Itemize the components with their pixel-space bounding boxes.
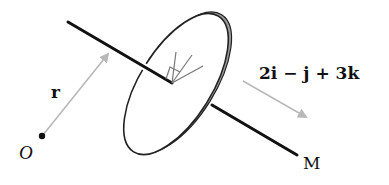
direction-vector-label: 2i − j + 3k xyxy=(259,65,359,82)
disk xyxy=(103,0,252,172)
position-vector-label: r xyxy=(51,84,60,101)
direction-vector-arrow xyxy=(243,81,306,117)
line-end-label: M xyxy=(303,155,320,172)
origin-label: O xyxy=(19,143,33,162)
line-m-segment xyxy=(212,105,297,155)
diagram: O r 2i − j + 3k M xyxy=(0,0,389,185)
origin-point xyxy=(39,133,45,139)
